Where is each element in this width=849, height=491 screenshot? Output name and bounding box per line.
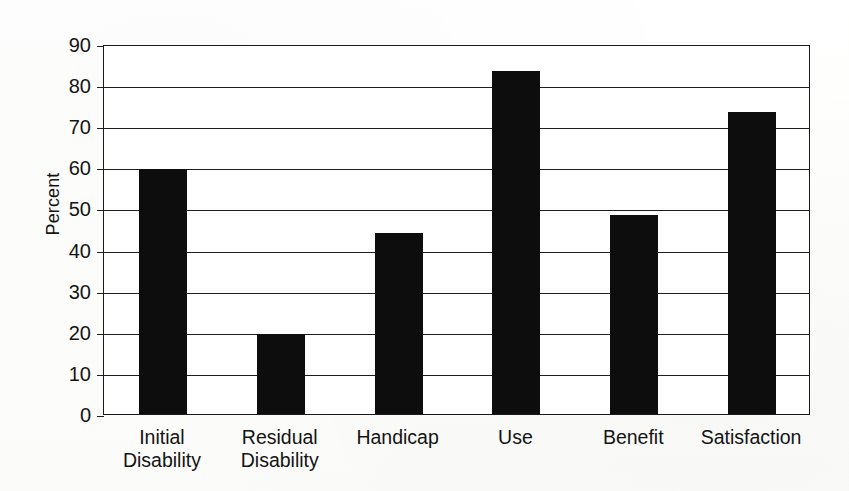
bar (139, 169, 187, 414)
x-axis-label: Initial Disability (103, 426, 221, 472)
y-tick-label-70: 70 (45, 117, 91, 137)
y-tick-label-80: 80 (45, 76, 91, 96)
y-tick-mark-30 (97, 293, 104, 294)
gridline-70 (104, 128, 809, 129)
x-axis-label: Benefit (574, 426, 692, 449)
y-tick-mark-70 (97, 128, 104, 129)
y-tick-mark-80 (97, 87, 104, 88)
y-tick-mark-50 (97, 210, 104, 211)
x-axis-label: Satisfaction (692, 426, 810, 449)
y-tick-mark-20 (97, 334, 104, 335)
y-tick-mark-10 (97, 375, 104, 376)
gridline-10 (104, 375, 809, 376)
gridline-40 (104, 252, 809, 253)
gridline-60 (104, 169, 809, 170)
bar-chart-figure: Percent 9080706050403020100 Initial Disa… (0, 0, 849, 491)
plot-area (103, 45, 810, 415)
y-tick-label-40: 40 (45, 241, 91, 261)
y-tick-mark-90 (97, 46, 104, 47)
x-axis-label: Use (457, 426, 575, 449)
gridline-20 (104, 334, 809, 335)
y-tick-mark-0 (97, 416, 104, 417)
gridline-30 (104, 293, 809, 294)
bar (728, 112, 776, 414)
gridline-50 (104, 210, 809, 211)
bar (610, 215, 658, 414)
bar (375, 233, 423, 414)
y-tick-label-90: 90 (45, 35, 91, 55)
y-tick-label-30: 30 (45, 282, 91, 302)
y-tick-label-0: 0 (45, 405, 91, 425)
y-tick-label-10: 10 (45, 364, 91, 384)
gridline-80 (104, 87, 809, 88)
x-axis-label: Handicap (339, 426, 457, 449)
bar (257, 334, 305, 414)
y-tick-label-50: 50 (45, 199, 91, 219)
y-tick-label-60: 60 (45, 158, 91, 178)
y-tick-label-20: 20 (45, 323, 91, 343)
y-tick-mark-60 (97, 169, 104, 170)
y-tick-mark-40 (97, 252, 104, 253)
x-axis-label: Residual Disability (221, 426, 339, 472)
bar (492, 71, 540, 414)
